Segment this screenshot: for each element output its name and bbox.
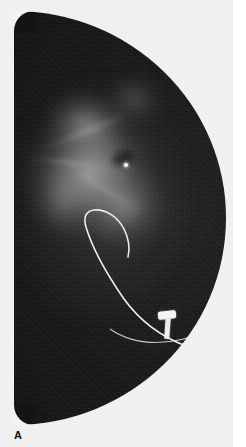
panel-label: A <box>14 429 22 441</box>
page-right-margin <box>233 0 246 447</box>
figure-root: A <box>0 0 246 447</box>
